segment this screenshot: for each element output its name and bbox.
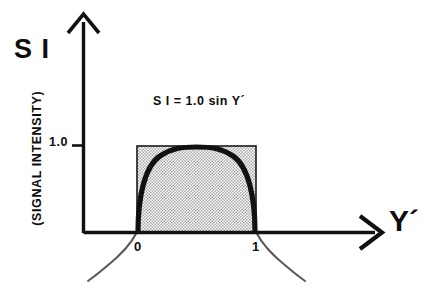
x-axis-tick-label-0: 0 <box>134 240 141 253</box>
y-axis-title: S I <box>14 36 50 63</box>
x-axis-tick-label-1: 1 <box>252 240 259 253</box>
x-axis-title: Y´ <box>389 206 419 236</box>
equation-annotation: S I = 1.0 sin Y´ <box>153 95 245 108</box>
y-axis-tick-label-1: 1.0 <box>49 136 68 149</box>
y-axis-subtitle: (SIGNAL INTENSITY) <box>31 83 44 233</box>
right-tail-curve <box>256 232 305 281</box>
signal-intensity-figure: S I (SIGNAL INTENSITY) S I = 1.0 sin Y´ … <box>0 0 437 290</box>
left-tail-curve <box>88 232 137 281</box>
